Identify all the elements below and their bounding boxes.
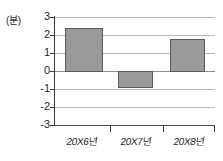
bar-20x7	[118, 71, 153, 88]
y-tick-label: 3	[28, 11, 50, 22]
y-tick-label: 1	[28, 47, 50, 58]
y-axis-tick-labels: 3 2 1 0 -1 -2 -3	[24, 0, 50, 161]
x-axis-label-20x8: 20X8년	[163, 133, 215, 148]
gridline-3	[55, 17, 215, 18]
x-axis-separator-tick	[214, 125, 215, 132]
x-axis-separator-tick	[110, 125, 111, 132]
y-tick-label: -2	[28, 101, 50, 112]
y-tick-label: 0	[28, 65, 50, 76]
x-axis-label-20x6: 20X6년	[56, 133, 108, 148]
x-axis-separator-tick	[163, 125, 164, 132]
bar-chart-figure: (분) 3 2 1 0 -1 -2 -3 20X6년 20X7년	[0, 0, 223, 161]
y-tick-label: 2	[28, 29, 50, 40]
x-axis-baseline	[55, 125, 215, 126]
y-tick-label: -1	[28, 83, 50, 94]
x-axis-label-20x7: 20X7년	[110, 133, 162, 148]
gridline-neg1	[55, 89, 215, 90]
y-axis-unit-label: (분)	[6, 12, 21, 27]
bar-20x6	[65, 28, 103, 72]
plot-area	[55, 17, 215, 125]
y-tick-label: -3	[28, 119, 50, 130]
gridline-neg2	[55, 107, 215, 108]
bar-20x8	[170, 39, 205, 72]
